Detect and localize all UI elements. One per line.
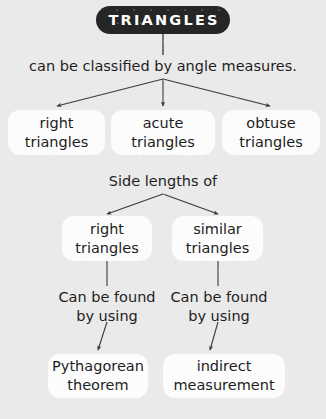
node-line-1: similar bbox=[193, 220, 242, 239]
node-line-2: triangles bbox=[75, 239, 138, 258]
node-acute-triangles: acute triangles bbox=[111, 110, 215, 155]
node-line-1: indirect bbox=[197, 357, 252, 376]
node-line-2: triangles bbox=[131, 133, 194, 152]
label-classified-by: can be classified by angle measures. bbox=[0, 57, 326, 76]
label-line-2: by using bbox=[43, 307, 171, 326]
edge-sidelengths-to-right bbox=[107, 194, 163, 214]
label-can-be-found-right: Can be found by using bbox=[155, 288, 283, 325]
edge-sidelengths-to-similar bbox=[163, 194, 218, 214]
node-line-1: right bbox=[90, 220, 124, 239]
node-obtuse-triangles: obtuse triangles bbox=[222, 110, 320, 155]
node-line-1: Pythagorean bbox=[52, 357, 144, 376]
node-line-2: triangles bbox=[239, 133, 302, 152]
edge-method-label-to-pythagorean bbox=[98, 322, 107, 350]
node-indirect-measurement: indirect measurement bbox=[163, 354, 285, 398]
node-right-triangles-side: right triangles bbox=[62, 216, 152, 261]
concept-map-diagram: TRIANGLES can be classified by angle mea… bbox=[0, 0, 326, 419]
node-right-triangles-angle: right triangles bbox=[8, 110, 105, 155]
label-can-be-found-left: Can be found by using bbox=[43, 288, 171, 325]
node-line-2: triangles bbox=[186, 239, 249, 258]
node-line-2: measurement bbox=[173, 376, 274, 395]
node-pythagorean-theorem: Pythagorean theorem bbox=[48, 354, 148, 398]
node-line-2: triangles bbox=[25, 133, 88, 152]
edge-classified-to-obtuse bbox=[163, 79, 270, 106]
node-line-1: right bbox=[39, 114, 73, 133]
label-line-1: Can be found bbox=[43, 288, 171, 307]
label-side-lengths-of: Side lengths of bbox=[0, 172, 326, 191]
node-line-1: obtuse bbox=[246, 114, 295, 133]
edge-classified-to-right bbox=[57, 79, 163, 106]
diagram-title-pill: TRIANGLES bbox=[96, 6, 230, 34]
label-line-1: Can be found bbox=[155, 288, 283, 307]
node-similar-triangles: similar triangles bbox=[172, 216, 263, 261]
edge-method-label-to-indirect bbox=[210, 322, 218, 350]
label-line-2: by using bbox=[155, 307, 283, 326]
diagram-title-text: TRIANGLES bbox=[106, 13, 219, 28]
node-line-2: theorem bbox=[67, 376, 128, 395]
node-line-1: acute bbox=[143, 114, 184, 133]
